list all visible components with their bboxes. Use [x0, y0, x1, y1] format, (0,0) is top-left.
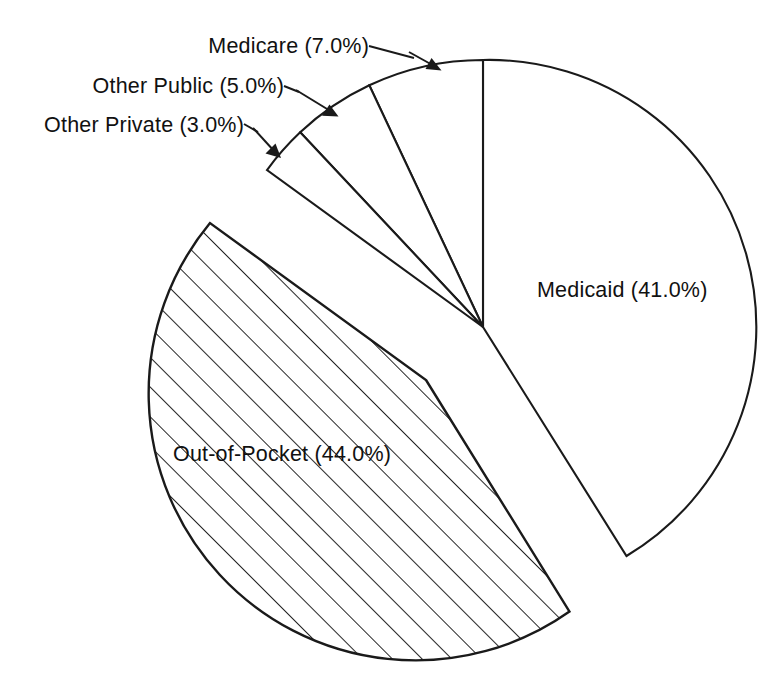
label-other-public: Other Public (5.0%)	[93, 74, 284, 98]
leader-other-public	[284, 86, 339, 117]
pie-slice-medicaid[interactable]	[483, 60, 756, 556]
leader-other-private	[244, 124, 281, 158]
label-medicare: Medicare (7.0%)	[208, 34, 369, 58]
leader-medicare	[369, 46, 442, 71]
pie-chart: Medicare (7.0%) Other Public (5.0%) Othe…	[0, 0, 781, 696]
pie-chart-canvas: Medicare (7.0%) Other Public (5.0%) Othe…	[0, 0, 781, 696]
label-other-private: Other Private (3.0%)	[44, 113, 244, 137]
leader-arrowhead-other-private	[266, 144, 282, 159]
label-medicaid: Medicaid (41.0%)	[537, 278, 708, 302]
label-out-of-pocket: Out-of-Pocket (44.0%)	[173, 442, 391, 466]
